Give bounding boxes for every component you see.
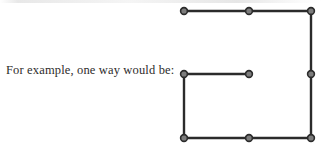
figure-node-n-top-left bbox=[181, 8, 188, 15]
scanned-page: For example, one way would be: bbox=[0, 0, 321, 146]
dot-lattice-path-figure bbox=[0, 0, 321, 146]
figure-node-n-top-mid bbox=[246, 8, 253, 15]
figure-node-n-top-right bbox=[308, 8, 315, 15]
figure-node-n-bottom-mid bbox=[246, 135, 253, 142]
figure-node-n-bottom-left bbox=[181, 135, 188, 142]
figure-node-n-bottom-right bbox=[308, 135, 315, 142]
figure-node-n-mid-left bbox=[181, 71, 188, 78]
figure-node-n-mid-mid bbox=[246, 71, 253, 78]
figure-node-n-mid-right bbox=[308, 71, 315, 78]
